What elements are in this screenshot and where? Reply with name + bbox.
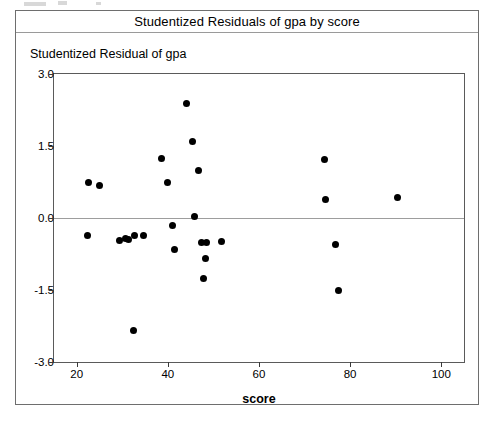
scatter-point (169, 222, 176, 229)
scatter-point (335, 287, 342, 294)
scatter-point (183, 100, 190, 107)
y-axis-ticks: 3.01.50.0-1.5-3.0 (17, 74, 54, 362)
x-tick-mark (168, 362, 169, 367)
x-tick-label: 40 (148, 368, 188, 380)
y-tick-mark (49, 74, 54, 75)
plot-area: 3.01.50.0-1.5-3.0 20406080100 (53, 73, 465, 363)
scatter-point (332, 241, 339, 248)
x-axis-label: score (53, 392, 465, 406)
y-tick-mark (49, 290, 54, 291)
x-tick-mark (441, 362, 442, 367)
scatter-point (203, 239, 210, 246)
zero-reference-line (54, 218, 464, 219)
x-tick-label: 60 (239, 368, 279, 380)
x-tick-mark (259, 362, 260, 367)
x-tick-label: 80 (330, 368, 370, 380)
chart-title: Studentized Residuals of gpa by score (134, 14, 360, 29)
scatter-point (195, 167, 202, 174)
scatter-point (140, 232, 147, 239)
x-tick-label: 100 (421, 368, 461, 380)
scan-artifact-mark (96, 2, 101, 5)
scatter-point (321, 156, 328, 163)
scatter-point (394, 194, 401, 201)
scatter-point (322, 196, 329, 203)
x-tick-mark (350, 362, 351, 367)
y-axis-label: Studentized Residual of gpa (30, 47, 186, 61)
scatter-point (130, 327, 137, 334)
scan-artifact-mark (58, 1, 67, 5)
scatter-point (164, 179, 171, 186)
x-axis-ticks: 20406080100 (54, 362, 464, 392)
scatter-point (218, 238, 225, 245)
x-tick-label: 20 (57, 368, 97, 380)
scatter-point (84, 232, 91, 239)
scatter-point (202, 255, 209, 262)
scatter-point (189, 138, 196, 145)
chart-panel: Studentized Residuals of gpa by score St… (15, 10, 479, 405)
y-tick-mark (49, 146, 54, 147)
scan-artifact-mark (24, 2, 46, 6)
scatter-point (85, 179, 92, 186)
scatter-point (158, 155, 165, 162)
scatter-point (171, 246, 178, 253)
scatter-point (96, 182, 103, 189)
scatter-point (131, 232, 138, 239)
scatter-point (200, 275, 207, 282)
x-tick-mark (77, 362, 78, 367)
chart-title-bar: Studentized Residuals of gpa by score (16, 11, 478, 33)
